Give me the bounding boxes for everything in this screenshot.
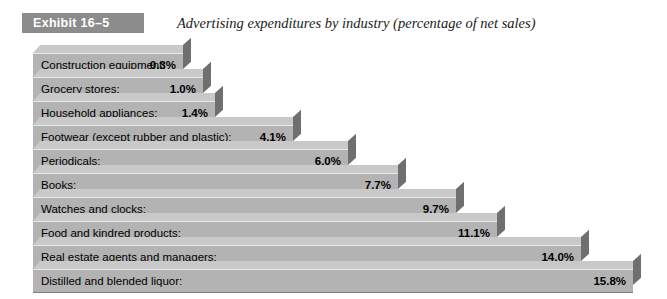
bar-side-face (633, 254, 641, 285)
bar-side-face (293, 110, 301, 141)
bar-chart: Construction equipment:0.3%Grocery store… (33, 45, 658, 293)
bar-top-face (33, 261, 640, 269)
page-title: Advertising expenditures by industry (pe… (177, 13, 536, 33)
bar-top-face (33, 69, 210, 77)
exhibit-header: Exhibit 16–5 Advertising expenditures by… (0, 0, 667, 40)
bar-side-face (581, 230, 589, 261)
bar-side-face (456, 182, 464, 213)
bar-top-face (33, 189, 463, 197)
bar-side-face (348, 134, 356, 165)
bar-side-face (215, 86, 223, 117)
bar-side-face (497, 206, 505, 237)
bar-top-face (33, 93, 222, 101)
exhibit-badge: Exhibit 16–5 (22, 13, 144, 33)
bar-top-face (33, 141, 355, 149)
bar-top-face (33, 165, 405, 173)
bar-side-face (398, 158, 406, 189)
bar-side-face (183, 38, 191, 69)
bar-row: Distilled and blended liquor:15.8% (33, 269, 641, 293)
bar-top-face (33, 237, 588, 245)
bar-side-face (203, 62, 211, 93)
bar-top-face (33, 45, 190, 53)
bar-value-label: 15.8% (33, 269, 626, 293)
bar-top-face (33, 117, 300, 125)
bar-top-face (33, 213, 504, 221)
